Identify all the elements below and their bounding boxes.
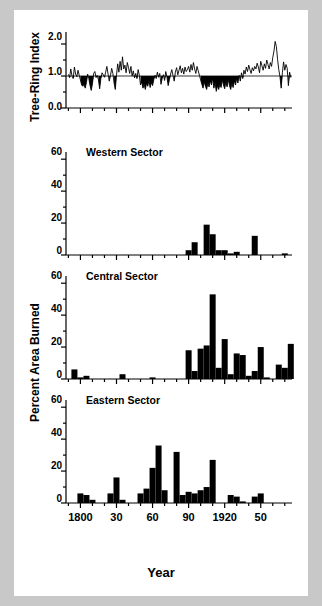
panel-central-sector: Central Sector 60 40 20 0: [14, 266, 308, 384]
figure-panel-stack: Tree-Ring Index Percent Area Burned 2.0 …: [14, 10, 308, 596]
central-sector-plot: [14, 266, 308, 384]
panel-eastern-sector: Eastern Sector 60 40 20 0: [14, 390, 308, 530]
x-axis-label: Year: [14, 565, 308, 580]
eastern-sector-plot: [14, 390, 308, 530]
panel-tree-ring-index: 2.0 1.0 0.0: [14, 10, 308, 140]
panel-western-sector: Western Sector 60 40 20 0: [14, 142, 308, 260]
tree-ring-index-plot: [14, 10, 308, 140]
xtick-label: 50: [236, 512, 286, 523]
western-sector-plot: [14, 142, 308, 260]
